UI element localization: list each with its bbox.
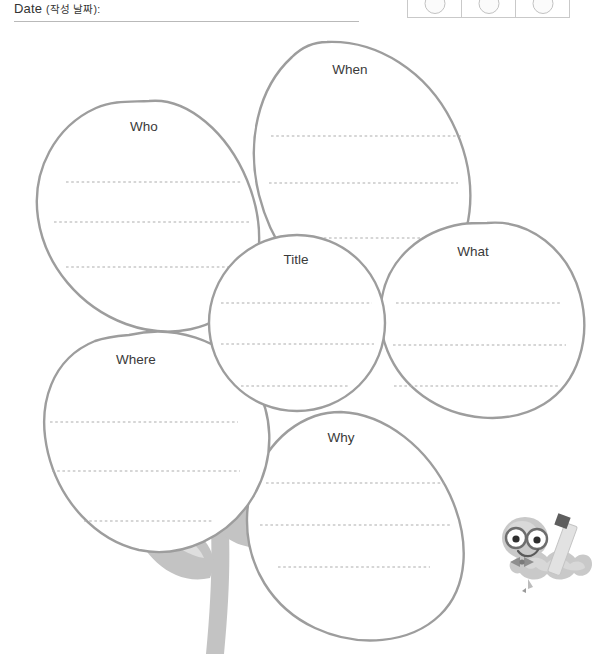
center-title[interactable]: Title [209, 235, 385, 411]
petal-what[interactable]: What [380, 223, 584, 418]
petal-why[interactable]: Why [247, 412, 464, 640]
petal-who-label: Who [130, 119, 158, 134]
bookworm-mascot [492, 505, 597, 595]
petal-what-label: What [457, 244, 489, 259]
worm-foot [522, 588, 526, 593]
petal-when-label: When [332, 62, 367, 77]
petal-where-label: Where [116, 352, 156, 367]
worm-eye-right [533, 536, 540, 543]
center-title-label: Title [283, 252, 308, 267]
petal-why-label: Why [328, 430, 355, 445]
worksheet-page: Date (작성 날짜): Who [0, 0, 612, 654]
worm-tail [528, 579, 533, 589]
worm-eye-left [512, 535, 519, 542]
petal-why-shape [247, 412, 464, 640]
bow-tie-knot [519, 559, 524, 564]
